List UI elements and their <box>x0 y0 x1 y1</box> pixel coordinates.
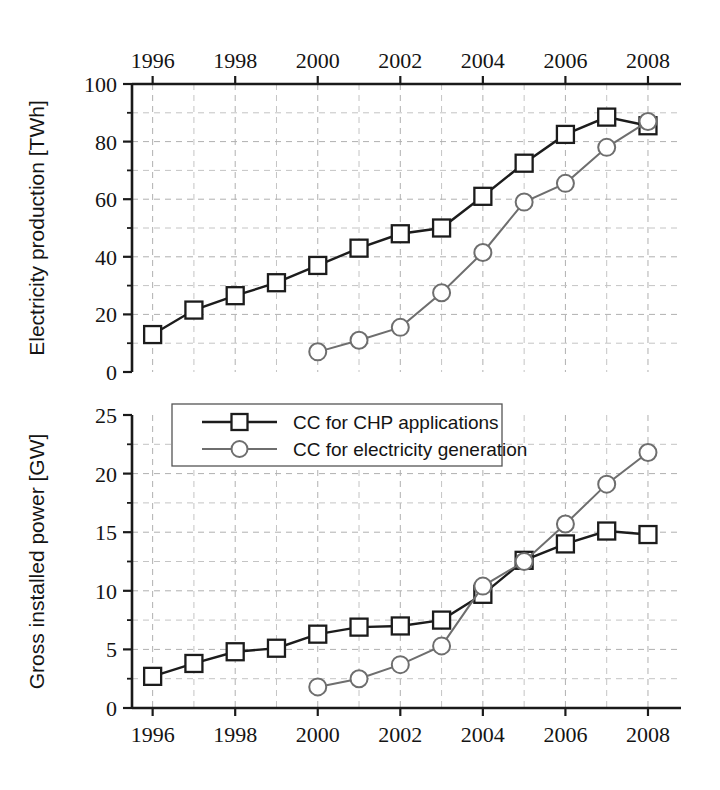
y-axis-title: Electricity production [TWh] <box>25 100 48 356</box>
data-point-square <box>557 535 574 552</box>
data-point-square <box>392 617 409 634</box>
x-tick-label: 2004 <box>461 48 505 73</box>
x-tick-label: 2002 <box>378 48 422 73</box>
data-point-square <box>639 526 656 543</box>
data-point-square <box>516 155 533 172</box>
y-tick-label: 10 <box>95 579 117 604</box>
legend-item-label: CC for CHP applications <box>293 412 499 433</box>
data-point-square <box>351 240 368 257</box>
y-tick-label: 0 <box>106 696 117 721</box>
data-point-square <box>144 668 161 685</box>
data-point-square <box>309 257 326 274</box>
data-point-square <box>433 612 450 629</box>
y-tick-label: 60 <box>95 187 117 212</box>
data-point-circle <box>433 284 450 301</box>
legend: CC for CHP applicationsCC for electricit… <box>172 404 527 466</box>
data-point-square <box>268 274 285 291</box>
data-point-circle <box>598 476 615 493</box>
data-point-square <box>598 523 615 540</box>
figure-container: 1996199820002002200420062008020406080100… <box>0 0 720 790</box>
data-point-square <box>185 655 202 672</box>
data-point-square <box>598 109 615 126</box>
legend-item: CC for CHP applications <box>202 412 499 433</box>
x-tick-label: 2006 <box>543 48 587 73</box>
data-point-circle <box>433 637 450 654</box>
x-tick-label: 2008 <box>626 48 670 73</box>
data-point-circle <box>392 656 409 673</box>
data-point-circle <box>309 678 326 695</box>
data-point-circle <box>516 553 533 570</box>
data-point-square <box>433 220 450 237</box>
data-point-square <box>474 188 491 205</box>
legend-marker-circle <box>232 441 248 457</box>
data-point-square <box>227 287 244 304</box>
data-point-circle <box>639 444 656 461</box>
x-tick-label: 1996 <box>131 48 175 73</box>
x-tick-label: 2004 <box>461 722 505 747</box>
data-point-square <box>392 225 409 242</box>
data-point-circle <box>351 332 368 349</box>
data-point-circle <box>598 139 615 156</box>
x-tick-label: 2006 <box>543 722 587 747</box>
data-point-circle <box>474 578 491 595</box>
legend-item-label: CC for electricity generation <box>293 439 527 460</box>
y-tick-label: 40 <box>95 245 117 270</box>
data-point-circle <box>309 343 326 360</box>
x-tick-label: 2000 <box>296 48 340 73</box>
x-tick-label: 2000 <box>296 722 340 747</box>
data-point-square <box>557 126 574 143</box>
panel-top: 1996199820002002200420062008020406080100… <box>25 48 681 385</box>
data-point-square <box>351 619 368 636</box>
x-tick-label: 1998 <box>213 48 257 73</box>
y-axis-title: Gross installed power [GW] <box>25 434 48 690</box>
y-tick-label: 20 <box>95 302 117 327</box>
dual-panel-line-chart: 1996199820002002200420062008020406080100… <box>0 0 720 790</box>
data-point-circle <box>516 194 533 211</box>
x-tick-label: 2002 <box>378 722 422 747</box>
x-tick-label: 1998 <box>213 722 257 747</box>
y-tick-label: 25 <box>95 403 117 428</box>
data-point-circle <box>639 113 656 130</box>
data-point-square <box>309 626 326 643</box>
data-point-square <box>268 640 285 657</box>
data-point-circle <box>557 515 574 532</box>
data-point-square <box>185 302 202 319</box>
data-point-square <box>227 643 244 660</box>
data-point-square <box>144 326 161 343</box>
legend-marker-square <box>232 414 248 430</box>
x-tick-label: 2008 <box>626 722 670 747</box>
y-tick-label: 15 <box>95 520 117 545</box>
data-point-circle <box>351 670 368 687</box>
y-tick-label: 100 <box>84 72 117 97</box>
y-tick-label: 20 <box>95 462 117 487</box>
y-tick-label: 0 <box>106 360 117 385</box>
y-tick-label: 80 <box>95 130 117 155</box>
data-point-circle <box>474 244 491 261</box>
data-point-circle <box>392 319 409 336</box>
y-tick-label: 5 <box>106 637 117 662</box>
x-tick-label: 1996 <box>131 722 175 747</box>
data-point-circle <box>557 175 574 192</box>
